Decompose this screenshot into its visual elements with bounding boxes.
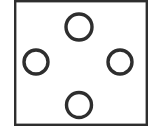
diagram-svg — [0, 0, 154, 135]
figure-canvas — [0, 0, 154, 135]
rectangular-frame — [15, 1, 147, 125]
